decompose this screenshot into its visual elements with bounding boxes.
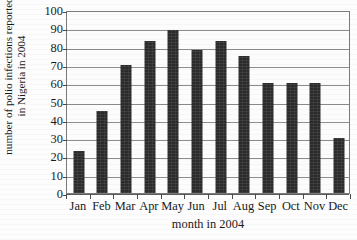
x-tick-label-mar: Mar <box>113 199 137 213</box>
x-tick-label-jul: Jul <box>208 199 232 213</box>
y-tick-label-70: 70 <box>23 60 63 72</box>
bar-feb <box>97 111 108 193</box>
y-tick-label-80: 80 <box>23 42 63 54</box>
y-tick-label-0: 0 <box>23 188 63 200</box>
x-tick-label-dec: Dec <box>326 199 350 213</box>
x-tick-label-jun: Jun <box>184 199 208 213</box>
bar-jun <box>192 50 203 193</box>
bars-group <box>67 12 349 193</box>
x-tick-label-apr: Apr <box>137 199 161 213</box>
bar-slot <box>256 12 280 193</box>
bar-slot <box>209 12 233 193</box>
bar-nov <box>310 83 321 193</box>
x-tick-label-jan: Jan <box>66 199 90 213</box>
bar-slot <box>114 12 138 193</box>
bar-apr <box>144 41 155 193</box>
bar-slot <box>67 12 91 193</box>
bar-slot <box>138 12 162 193</box>
bar-slot <box>162 12 186 193</box>
bar-aug <box>239 56 250 193</box>
bar-slot <box>280 12 304 193</box>
bar-dec <box>334 138 345 193</box>
bar-may <box>168 30 179 193</box>
x-tick-12 <box>350 194 351 199</box>
x-tick-label-sep: Sep <box>255 199 279 213</box>
bar-sep <box>263 83 274 193</box>
bar-slot <box>327 12 351 193</box>
x-tick-label-may: May <box>161 199 185 213</box>
y-tick-label-90: 90 <box>23 23 63 35</box>
y-tick-label-100: 100 <box>23 5 63 17</box>
bar-mar <box>121 65 132 193</box>
y-tick-label-20: 20 <box>23 151 63 163</box>
bar-slot <box>233 12 257 193</box>
y-tick-label-30: 30 <box>23 133 63 145</box>
x-tick-label-aug: Aug <box>232 199 256 213</box>
y-tick-label-40: 40 <box>23 115 63 127</box>
y-tick-label-10: 10 <box>23 170 63 182</box>
bar-slot <box>91 12 115 193</box>
bar-oct <box>286 83 297 193</box>
bar-slot <box>304 12 328 193</box>
x-tick-label-feb: Feb <box>90 199 114 213</box>
y-axis-title-line-1: number of polio infections reported <box>2 0 15 169</box>
x-axis-title: month in 2004 <box>66 217 350 231</box>
x-tick-label-oct: Oct <box>279 199 303 213</box>
bar-jan <box>73 151 84 193</box>
y-tick-label-60: 60 <box>23 78 63 90</box>
bar-chart-figure: number of polio infections reported in N… <box>0 0 357 240</box>
y-tick-label-50: 50 <box>23 97 63 109</box>
plot-area <box>66 11 350 194</box>
bar-slot <box>185 12 209 193</box>
bar-jul <box>215 41 226 193</box>
x-tick-label-nov: Nov <box>303 199 327 213</box>
